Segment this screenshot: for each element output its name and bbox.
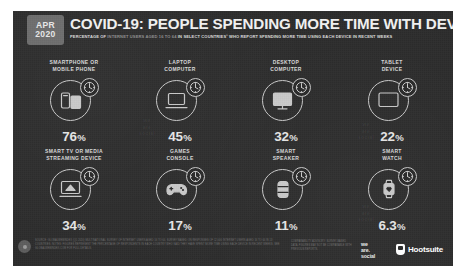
device-stat-card: SMARTSPEAKER11% (233, 144, 339, 233)
device-value-percent-sign: % (77, 132, 85, 143)
hootsuite-wordmark: Hootsuite (408, 245, 443, 254)
device-value: 22% (380, 129, 403, 144)
device-label: SMARTSPEAKER (273, 148, 300, 163)
subtitle-run: IN SELECT COUNTRIES (178, 34, 226, 39)
device-stat-card: DESKTOPCOMPUTER32% (233, 55, 339, 144)
device-value-number: 34 (62, 218, 77, 233)
clock-icon (292, 78, 311, 97)
clock-icon (80, 167, 99, 186)
device-value-percent-sign: % (395, 132, 403, 143)
device-stat-card: SMARTPHONE ORMOBILE PHONE76% (21, 55, 127, 144)
we-are-social-logo: we are. social (361, 242, 375, 259)
device-stat-card: TABLETDEVICE22% (339, 55, 445, 144)
device-icon-group (150, 78, 210, 124)
device-icon-group (256, 167, 316, 213)
device-value-percent-sign: % (397, 221, 405, 232)
header: APR 2020 COVID-19: PEOPLE SPENDING MORE … (13, 11, 453, 49)
footer: SOURCE: GLOBALWEBINDEX (Q1 2020) MULTINA… (13, 234, 453, 266)
device-stat-card: LAPTOPCOMPUTER45% (127, 55, 233, 144)
clock-icon (186, 167, 205, 186)
device-grid: SMARTPHONE ORMOBILE PHONE76%LAPTOPCOMPUT… (21, 55, 445, 233)
device-label-line: SMART TV OR MEDIA (45, 148, 103, 154)
subtitle: PERCENTAGE OF INTERNET USERS AGED 16 TO … (70, 35, 447, 39)
device-value-percent-sign: % (183, 221, 191, 232)
device-value: 17% (168, 218, 191, 233)
device-value: 76% (62, 129, 85, 144)
logo-line-social: social (361, 254, 375, 260)
hootsuite-logo: Hootsuite (396, 244, 443, 255)
device-value: 11% (275, 218, 298, 233)
clock-icon (186, 78, 205, 97)
device-icon-group (44, 167, 104, 213)
clock-icon (398, 78, 417, 97)
device-label-line: LAPTOP (169, 59, 191, 65)
device-label-line: SMART (382, 148, 402, 154)
device-value-number: 11 (275, 218, 289, 233)
subtitle-run: PERCENTAGE OF (70, 34, 107, 39)
device-icon-group (362, 78, 422, 124)
page-title: COVID-19: PEOPLE SPENDING MORE TIME WITH… (70, 16, 447, 32)
device-value-number: 6.3 (379, 218, 397, 233)
device-value-number: 76 (62, 129, 77, 144)
device-label-line: COMPUTER (164, 66, 195, 72)
device-value-percent-sign: % (183, 132, 191, 143)
device-icon-group (362, 167, 422, 213)
device-value: 6.3% (379, 218, 406, 233)
clock-icon (398, 167, 417, 186)
device-label-line: WATCH (382, 155, 402, 161)
device-value-percent-sign: % (289, 132, 297, 143)
subtitle-run: INTERNET USERS AGED 16 TO 64 (107, 34, 178, 39)
device-label-line: TABLET (381, 59, 402, 65)
device-value-percent-sign: % (289, 221, 297, 232)
device-label-line: SMARTPHONE OR (50, 59, 99, 65)
device-label-line: MOBILE PHONE (53, 66, 96, 72)
date-badge: APR 2020 (27, 15, 64, 45)
device-label-line: DEVICE (382, 66, 403, 72)
device-icon-group (44, 78, 104, 124)
device-value: 32% (274, 129, 297, 144)
device-icon-group (150, 167, 210, 213)
device-label: LAPTOPCOMPUTER (164, 59, 195, 74)
device-label-line: SMART (276, 148, 296, 154)
device-value: 45% (168, 129, 191, 144)
device-stat-card: GAMESCONSOLE17% (127, 144, 233, 233)
title-block: COVID-19: PEOPLE SPENDING MORE TIME WITH… (70, 16, 447, 39)
device-label-line: SPEAKER (273, 155, 300, 161)
device-value-percent-sign: % (77, 221, 85, 232)
device-label: TABLETDEVICE (381, 59, 402, 74)
device-label-line: CONSOLE (166, 155, 193, 161)
device-label-line: STREAMING DEVICE (46, 155, 102, 161)
device-stat-card: SMART TV OR MEDIASTREAMING DEVICE34% (21, 144, 127, 233)
device-value: 34% (62, 218, 85, 233)
device-label-line: COMPUTER (270, 66, 301, 72)
hootsuite-owl-icon (396, 244, 405, 255)
device-stat-card: SMARTWATCH6.3% (339, 144, 445, 233)
device-value-number: 32 (274, 129, 289, 144)
device-value-number: 45 (168, 129, 183, 144)
device-icon-group (256, 78, 316, 124)
info-icon (18, 240, 31, 253)
clock-icon (292, 167, 311, 186)
device-value-number: 22 (380, 129, 395, 144)
clock-icon (80, 78, 99, 97)
footer-comparability-note: COMPARABILITY ADVISORY: SURVEY-BASED DAT… (291, 240, 353, 251)
device-label-line: DESKTOP (273, 59, 300, 65)
device-label: SMARTWATCH (382, 148, 402, 163)
device-label: SMARTPHONE ORMOBILE PHONE (50, 59, 99, 74)
device-label: DESKTOPCOMPUTER (270, 59, 301, 74)
device-value-number: 17 (168, 218, 183, 233)
footer-source-note: SOURCE: GLOBALWEBINDEX (Q1 2020) MULTINA… (35, 239, 285, 250)
subtitle-run: WHO REPORT SPENDING MORE TIME USING EACH… (229, 34, 392, 39)
device-label: GAMESCONSOLE (166, 148, 193, 163)
device-label: SMART TV OR MEDIASTREAMING DEVICE (45, 148, 103, 163)
device-label-line: GAMES (170, 148, 190, 154)
date-badge-year: 2020 (35, 30, 56, 39)
infographic-slide: APR 2020 COVID-19: PEOPLE SPENDING MORE … (13, 11, 453, 266)
